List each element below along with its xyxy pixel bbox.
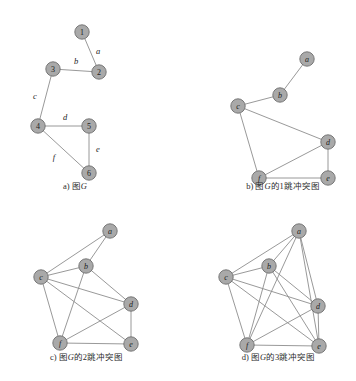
graph-node[interactable]: b (273, 88, 287, 102)
edge-label: f (53, 152, 57, 162)
caption-c-text: c) (50, 352, 59, 362)
graph-node[interactable]: d (321, 135, 335, 149)
graph-node[interactable]: 5 (82, 119, 96, 133)
node-label: a (297, 227, 301, 236)
graph-edge (41, 277, 60, 343)
graph-node[interactable]: 3 (46, 62, 60, 76)
caption-panel-d: d) 图G的3跳冲突图 (206, 352, 351, 363)
graph-edge (60, 266, 86, 343)
panel-b-svg: abcdef (222, 50, 347, 192)
graph-edge (226, 277, 318, 306)
panel-c-nodes: abcdef (34, 224, 138, 351)
graph-node[interactable]: c (34, 270, 48, 284)
edge-label: c (33, 91, 37, 101)
graph-edge (299, 231, 319, 346)
caption-d-text: d) (242, 352, 251, 362)
node-label: 6 (87, 169, 91, 178)
node-label: c (39, 273, 43, 282)
graph-node[interactable]: 2 (92, 65, 106, 79)
graph-node[interactable]: f (240, 338, 254, 352)
graph-edge (238, 106, 259, 178)
caption-a-text: a) (63, 181, 72, 191)
caption-panel-c: c) 图G的2跳冲突图 (14, 352, 159, 363)
panel-a-svg: 123456 abcdef (20, 18, 130, 190)
graph-edge (238, 106, 328, 142)
panel-c-edges (41, 231, 131, 344)
graph-edge (38, 126, 89, 173)
edge-label: e (96, 144, 100, 154)
node-label: a (305, 55, 309, 64)
node-label: b (84, 262, 88, 271)
graph-edge (299, 231, 318, 306)
caption-a-word: 图 (72, 181, 81, 191)
graph-node[interactable]: b (79, 259, 93, 273)
node-label: b (278, 91, 282, 100)
graph-edge (60, 343, 131, 344)
graph-node[interactable]: 6 (82, 166, 96, 180)
caption-c-word: 图 (59, 352, 68, 362)
node-label: 3 (51, 65, 55, 74)
caption-b-suffix: 的1跳冲突图 (271, 181, 320, 191)
graph-edge (86, 266, 131, 304)
graph-node[interactable]: c (231, 99, 245, 113)
node-label: b (267, 262, 271, 271)
graph-node[interactable]: d (311, 299, 325, 313)
caption-d-word: 图 (251, 352, 260, 362)
node-label: 1 (80, 28, 84, 37)
top-bleed-text (0, 0, 356, 9)
node-label: 2 (97, 68, 101, 77)
graph-node[interactable]: a (300, 52, 314, 66)
graph-edge (269, 266, 318, 306)
panel-1hop-conflict-graph: abcdef (222, 50, 347, 195)
node-label: e (317, 342, 321, 351)
graph-node[interactable]: b (262, 259, 276, 273)
edge-label: b (74, 56, 78, 66)
graph-edge (226, 277, 247, 345)
edge-label: d (63, 112, 68, 122)
graph-edge (259, 142, 328, 178)
node-label: e (129, 340, 133, 349)
caption-a-symbol: G (81, 181, 87, 191)
caption-d-suffix: 的3跳冲突图 (266, 352, 315, 362)
panel-graph-g: 123456 abcdef (20, 18, 130, 193)
graph-edge (38, 69, 53, 126)
graph-node[interactable]: f (53, 336, 67, 350)
graph-node[interactable]: e (124, 337, 138, 351)
graph-edge (41, 277, 131, 344)
panel-d-svg: abcdef (212, 221, 337, 360)
caption-panel-a: a) 图G (18, 181, 132, 192)
edge-label: a (96, 46, 100, 56)
graph-edge (247, 345, 319, 346)
bottom-bleed-text (0, 369, 356, 381)
panel-a-nodes: 123456 (31, 25, 106, 180)
graph-node[interactable]: a (103, 224, 117, 238)
node-label: c (224, 273, 228, 282)
graph-node[interactable]: d (124, 297, 138, 311)
graph-edge (247, 266, 269, 345)
graph-node[interactable]: c (219, 270, 233, 284)
caption-c-suffix: 的2跳冲突图 (74, 352, 123, 362)
panel-2hop-conflict-graph: abcdef (30, 221, 150, 361)
panel-d-edges (226, 231, 319, 346)
panel-a-edge-labels: abcdef (33, 46, 100, 162)
node-label: 4 (36, 122, 40, 131)
graph-edge (247, 231, 299, 345)
graph-node[interactable]: 1 (75, 25, 89, 39)
caption-panel-b: b) 图G的1跳冲突图 (210, 181, 356, 192)
graph-edge (60, 304, 131, 343)
panel-b-edges (238, 59, 328, 178)
panel-c-svg: abcdef (30, 221, 150, 358)
graph-node[interactable]: 4 (31, 119, 45, 133)
graph-edge (226, 277, 319, 346)
figure-conflict-graphs: 123456 abcdef a) 图G abcdef b) 图G的1跳冲突图 a… (0, 0, 356, 381)
graph-node[interactable]: a (292, 224, 306, 238)
panel-a-edges (38, 32, 99, 173)
node-label: 5 (87, 122, 91, 131)
graph-edge (247, 306, 318, 345)
graph-edge (41, 277, 131, 304)
node-label: c (236, 102, 240, 111)
panel-3hop-conflict-graph: abcdef (212, 221, 337, 363)
node-label: a (108, 227, 112, 236)
graph-edge (41, 231, 110, 277)
